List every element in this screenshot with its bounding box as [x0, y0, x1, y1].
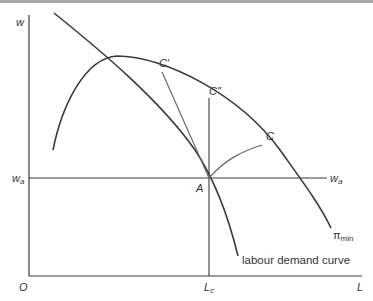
point-c-double-prime-label: C″ [209, 86, 221, 97]
point-c-label: C [266, 131, 274, 142]
pi-min-sub: min [341, 234, 354, 243]
point-a-label: A [196, 183, 203, 194]
wa-right-sub: a [338, 177, 342, 186]
x-axis-label: L [357, 282, 363, 293]
chord-a-to-c-prime [162, 72, 209, 178]
wa-left-main: w [12, 172, 20, 184]
wa-right-label: wa [330, 173, 342, 186]
labour-demand-curve [54, 13, 238, 256]
point-c-prime-label: C′ [159, 58, 169, 69]
lc-sub: c [210, 286, 214, 295]
wa-right-main: w [330, 172, 338, 184]
pi-min-label: πmin [333, 230, 353, 243]
wa-left-label: wa [12, 173, 24, 186]
lc-label: Lc [204, 282, 214, 295]
y-axis-label: w [16, 17, 24, 28]
origin-label: O [19, 282, 28, 293]
chord-a-to-c [209, 145, 262, 178]
wa-left-sub: a [20, 177, 24, 186]
pi-min-main: π [333, 229, 341, 241]
labour-demand-curve-label: labour demand curve [242, 255, 350, 267]
pi-min-curve [53, 56, 331, 228]
